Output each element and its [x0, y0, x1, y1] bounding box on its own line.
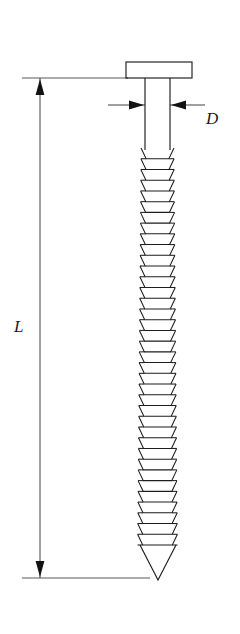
diameter-label: D [205, 109, 219, 128]
diagram-canvas: L D [0, 0, 240, 634]
diagram-background [0, 0, 240, 634]
nail-dimension-diagram: L D [0, 0, 240, 634]
length-label: L [13, 317, 23, 336]
